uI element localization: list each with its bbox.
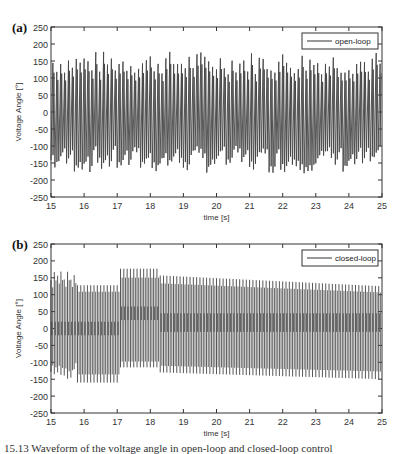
y-tick-label: 0 — [43, 108, 48, 118]
x-tick-label: 24 — [344, 417, 354, 427]
x-tick-label: 22 — [278, 417, 288, 427]
y-tick-label: 150 — [33, 273, 48, 283]
y-tick-label: -100 — [30, 358, 48, 368]
y-tick-label: -200 — [30, 392, 48, 402]
y-tick-label: 200 — [33, 40, 48, 50]
y-tick-label: 150 — [33, 57, 48, 67]
y-tick-label: -150 — [30, 375, 48, 385]
x-tick-label: 22 — [278, 201, 288, 211]
chart-b: 250200150100500-50-100-150-200-250151617… — [0, 217, 403, 442]
legend: closed-loop — [302, 250, 378, 266]
figure-caption: 15.13 Waveform of the voltage angle in o… — [4, 442, 333, 454]
x-tick-label: 17 — [112, 201, 122, 211]
x-axis-label: time [s] — [204, 429, 230, 438]
x-tick-label: 25 — [377, 201, 387, 211]
x-tick-label: 21 — [245, 417, 255, 427]
x-tick-label: 19 — [178, 201, 188, 211]
y-tick-label: -100 — [30, 142, 48, 152]
chart-a: 250200150100500-50-100-150-200-250151617… — [0, 0, 403, 225]
x-tick-label: 17 — [112, 417, 122, 427]
y-tick-label: 200 — [33, 256, 48, 266]
series-open-loop — [51, 52, 381, 173]
y-tick-label: 100 — [33, 290, 48, 300]
x-tick-label: 25 — [377, 417, 387, 427]
x-tick-label: 21 — [245, 201, 255, 211]
legend-label: open-loop — [335, 37, 371, 46]
series-closed-loop — [51, 269, 380, 383]
y-tick-label: 50 — [38, 307, 48, 317]
legend: open-loop — [302, 33, 378, 49]
panel-b: (b) 250200150100500-50-100-150-200-25015… — [0, 217, 403, 442]
x-tick-label: 15 — [46, 417, 56, 427]
legend-label: closed-loop — [335, 254, 376, 263]
x-tick-label: 19 — [178, 417, 188, 427]
y-tick-label: 100 — [33, 74, 48, 84]
y-tick-label: 250 — [33, 23, 48, 33]
y-axis-label: Voltage Angle [°] — [14, 299, 23, 358]
y-axis-label: Voltage Angle [°] — [14, 83, 23, 142]
panel-a: (a) 250200150100500-50-100-150-200-25015… — [0, 0, 403, 225]
y-tick-label: -50 — [35, 125, 48, 135]
y-tick-label: 50 — [38, 91, 48, 101]
x-tick-label: 15 — [46, 201, 56, 211]
y-tick-label: 0 — [43, 324, 48, 334]
x-tick-label: 23 — [311, 201, 321, 211]
y-tick-label: -50 — [35, 341, 48, 351]
y-tick-label: -200 — [30, 176, 48, 186]
x-tick-label: 18 — [145, 417, 155, 427]
x-tick-label: 20 — [211, 201, 221, 211]
x-tick-label: 18 — [145, 201, 155, 211]
x-tick-label: 23 — [311, 417, 321, 427]
y-tick-label: -150 — [30, 159, 48, 169]
x-tick-label: 16 — [79, 417, 89, 427]
y-tick-label: 250 — [33, 240, 48, 250]
x-tick-label: 24 — [344, 201, 354, 211]
x-tick-label: 20 — [211, 417, 221, 427]
x-tick-label: 16 — [79, 201, 89, 211]
